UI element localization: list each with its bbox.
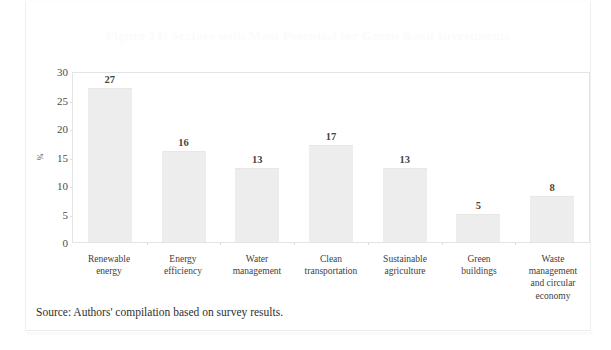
bar-value-label: 8: [550, 182, 555, 193]
bar-slot: 5: [442, 73, 516, 242]
bar-value-label: 5: [476, 200, 481, 211]
y-axis-tick-label: 5: [36, 209, 68, 221]
x-axis-category-labels: RenewableenergyEnergyefficiencyWatermana…: [72, 253, 590, 302]
bar[interactable]: 27: [88, 88, 132, 242]
bar-slot: 8: [515, 73, 589, 242]
x-axis-category-label: Sustainableagriculture: [368, 253, 442, 302]
bar-value-label: 27: [105, 74, 116, 85]
x-axis-tick-mark: [294, 242, 295, 245]
y-axis-tick-label: 10: [36, 180, 68, 192]
bar[interactable]: 13: [235, 168, 279, 242]
x-axis-tick-mark: [442, 242, 443, 245]
bar-value-label: 13: [399, 154, 410, 165]
y-axis-tick-mark: [70, 130, 73, 131]
bar-slot: 13: [220, 73, 294, 242]
x-axis-category-label: Wastemanagementand circulareconomy: [516, 253, 590, 302]
y-axis-tick-label: 15: [36, 152, 68, 164]
plot-area: 271613171358: [72, 72, 590, 243]
x-axis-tick-mark: [220, 242, 221, 245]
x-axis-tick-mark: [515, 242, 516, 245]
y-axis-tick-label: 30: [36, 66, 68, 78]
x-axis-category-label: Energyefficiency: [146, 253, 220, 302]
y-axis-tick-label: 0: [36, 237, 68, 249]
bar-value-label: 17: [326, 131, 337, 142]
bar[interactable]: 5: [456, 214, 500, 243]
bar-slot: 17: [294, 73, 368, 242]
y-axis-tick-label: 20: [36, 123, 68, 135]
x-axis-category-label: Cleantransportation: [294, 253, 368, 302]
x-axis-tick-mark: [368, 242, 369, 245]
bar[interactable]: 16: [162, 151, 206, 242]
y-axis-tick-mark: [70, 159, 73, 160]
bar-value-label: 13: [252, 154, 263, 165]
y-axis-tick-mark: [70, 187, 73, 188]
bar[interactable]: 8: [530, 196, 574, 242]
bar-slot: 27: [73, 73, 147, 242]
bar-slot: 13: [368, 73, 442, 242]
bar-slot: 16: [147, 73, 221, 242]
bar-series: 271613171358: [73, 73, 589, 242]
figure-page: Figure 14: Sectors with Most Potential f…: [0, 0, 611, 350]
x-axis-category-label: Greenbuildings: [442, 253, 516, 302]
bar[interactable]: 17: [309, 145, 353, 242]
x-axis-category-label: Renewableenergy: [72, 253, 146, 302]
source-note: Source: Authors' compilation based on su…: [36, 306, 283, 318]
x-axis-tick-mark: [147, 242, 148, 245]
chart-plot-wrapper: % 051015202530 271613171358: [36, 64, 591, 250]
y-axis-tick-mark: [70, 102, 73, 103]
chart-title: Figure 14: Sectors with Most Potential f…: [25, 28, 591, 44]
page-border-shadow: [27, 332, 593, 335]
bar[interactable]: 13: [383, 168, 427, 242]
y-axis-tick-mark: [70, 216, 73, 217]
bar-value-label: 16: [178, 137, 189, 148]
y-axis-tick-label: 25: [36, 95, 68, 107]
y-axis-tick-labels: 051015202530: [36, 64, 72, 250]
x-axis-category-label: Watermanagement: [220, 253, 294, 302]
